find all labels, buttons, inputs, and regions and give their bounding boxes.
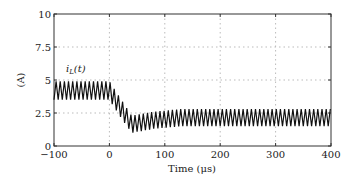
x-axis-label: Time (μs) [168, 163, 216, 174]
x-tick-label: 400 [321, 149, 340, 160]
y-tick-label: 5 [45, 75, 51, 86]
y-tick-label: 2.5 [35, 108, 51, 119]
y-tick-label: 10 [38, 9, 51, 20]
y-tick-label: 7.5 [35, 42, 51, 53]
x-tick-label: 100 [155, 149, 174, 160]
y-tick-label: 0 [45, 141, 51, 152]
grid-lines [54, 14, 331, 146]
x-tick-label: 0 [106, 149, 112, 160]
series-annotation: iL(t) [66, 63, 86, 76]
plot-area: −100010020030040002.557.510 iL(t) Time (… [0, 0, 354, 184]
x-tick-label: 200 [211, 149, 230, 160]
y-axis-label: (A) [15, 72, 26, 87]
x-tick-label: 300 [266, 149, 285, 160]
current-waveform [54, 81, 330, 132]
